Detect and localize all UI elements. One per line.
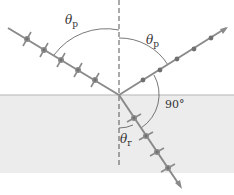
water-region <box>0 95 234 173</box>
incident-angle-arc <box>54 29 119 55</box>
reflected-angle-arc <box>119 38 168 65</box>
reflected-angle-label: θp <box>146 33 159 49</box>
incident-angle-label: θp <box>65 13 78 29</box>
brewster-diagram: θp θp 90° θr <box>0 0 234 195</box>
reflected-ray <box>119 27 228 95</box>
incident-ray <box>8 28 119 95</box>
right-angle-label: 90° <box>165 98 185 111</box>
